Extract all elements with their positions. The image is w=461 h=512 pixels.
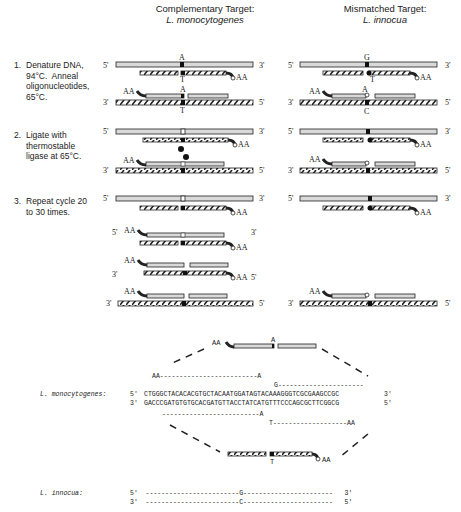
svg-text:5': 5' (251, 273, 257, 282)
junction-marker (180, 62, 184, 67)
svg-text:A: A (180, 85, 186, 94)
svg-text:AA: AA (309, 287, 321, 296)
svg-text:3': 3' (445, 61, 451, 70)
probe-upper-right: G---------------------- (274, 381, 364, 390)
svg-text:C: C (364, 107, 369, 116)
svg-text:T: T (180, 75, 185, 84)
svg-text:AA: AA (123, 87, 135, 96)
svg-text:5': 5' (445, 299, 451, 308)
svg-text:3': 3' (112, 270, 118, 279)
ligase-dot (178, 146, 184, 152)
svg-text:AA: AA (309, 87, 321, 96)
bottom-strand-sequence: GACCCGATGTGTGCACGATGTTACCTATCATGTTTCCCAG… (144, 399, 339, 408)
detail-upper-probe: AA A (170, 336, 368, 376)
detail-lower-probe: AA T (170, 425, 368, 466)
svg-text:5': 5' (259, 166, 265, 175)
svg-text:5': 5' (445, 98, 451, 107)
svg-text:AA: AA (236, 73, 248, 82)
svg-text:AA: AA (236, 273, 248, 282)
svg-text:3': 3' (251, 228, 257, 237)
svg-text:AA: AA (212, 339, 221, 347)
svg-text:AA: AA (124, 256, 136, 265)
svg-text:3': 3' (288, 166, 294, 175)
top-strand-sequence: CTGGGCTACACACGTGCTACAATGGATAGTACAAAGGGTC… (144, 390, 339, 399)
svg-text:3': 3' (445, 127, 451, 136)
svg-text:5': 5' (445, 166, 451, 175)
step2-mismatched: 5' 3' AA AA 3' 5' (288, 127, 451, 175)
svg-text:5': 5' (259, 98, 265, 107)
svg-text:3': 3' (259, 127, 265, 136)
probe-lower-left: -------------------------A (162, 410, 263, 419)
probe-lower-right: T-------------------AA (269, 419, 355, 428)
svg-text:T: T (270, 458, 274, 466)
svg-text:AA: AA (123, 156, 135, 165)
innocua-bottom-strand: 3' ------------------------C------------… (130, 498, 352, 507)
svg-text:5': 5' (103, 127, 109, 136)
svg-text:T: T (370, 75, 375, 84)
svg-text:AA: AA (236, 243, 248, 252)
svg-text:AA: AA (322, 456, 331, 464)
svg-text:AA: AA (124, 287, 136, 296)
step2-complementary: 5' 3' AA AA 3' 5' (103, 127, 265, 175)
organism-monocytogenes: L. monocytogenes: (40, 391, 106, 398)
svg-text:3': 3' (445, 194, 451, 203)
svg-text:3': 3' (288, 299, 294, 308)
svg-text:AA: AA (124, 226, 136, 235)
innocua-top-strand: 5' ------------------------G------------… (130, 489, 352, 498)
step3-complementary: 5' 3' AA 5' AA 3' AA AA 3' AA 5' AA (103, 194, 265, 308)
svg-text:5': 5' (288, 127, 294, 136)
svg-text:5': 5' (112, 228, 118, 237)
ligation-diagram: 5' 3' A AA T A AA 3' 5' T 5' 3' G AA (0, 0, 461, 512)
top-strand-prefix: 5' (130, 390, 138, 399)
svg-text:AA: AA (238, 140, 250, 149)
oligo-hatched (140, 71, 178, 75)
svg-text:5': 5' (259, 299, 265, 308)
template-strand (116, 62, 253, 67)
step1-mismatched: 5' 3' G AA T A AA 3' 5' C (288, 53, 451, 116)
svg-text:3': 3' (259, 61, 265, 70)
svg-text:AA: AA (420, 140, 432, 149)
step3-mismatched: 5' 3' AA AA 3' 5' (288, 194, 451, 308)
svg-text:3': 3' (103, 98, 109, 107)
step1-complementary: 5' 3' A AA T A AA 3' 5' T (103, 53, 265, 115)
organism-innocua: L. innocua: (40, 490, 83, 497)
svg-text:A: A (179, 53, 185, 62)
svg-text:5': 5' (288, 194, 294, 203)
bottom-strand-suffix: 5' (384, 399, 392, 408)
top-strand-suffix: 3' (384, 390, 392, 399)
svg-text:AA: AA (236, 208, 248, 217)
svg-text:AA: AA (420, 208, 432, 217)
svg-text:G: G (364, 53, 370, 62)
svg-text:AA: AA (420, 73, 432, 82)
svg-text:5': 5' (103, 194, 109, 203)
svg-text:A: A (271, 336, 276, 344)
ligase-dot (183, 154, 189, 160)
svg-text:3': 3' (259, 194, 265, 203)
svg-text:T: T (180, 106, 185, 115)
svg-text:5': 5' (103, 61, 109, 70)
oligo-hatched (181, 71, 226, 75)
svg-text:AA: AA (309, 155, 321, 164)
probe-upper-left: AA-------------------------A (152, 372, 261, 381)
svg-text:3': 3' (288, 98, 294, 107)
svg-text:5': 5' (288, 61, 294, 70)
bottom-strand-prefix: 3' (130, 399, 138, 408)
svg-text:3': 3' (106, 299, 112, 308)
svg-text:3': 3' (103, 166, 109, 175)
